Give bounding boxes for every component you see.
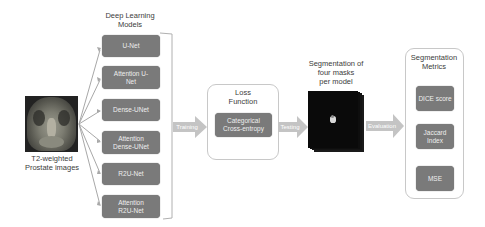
metrics-title-line: Segmentation [403,53,465,62]
loss-title: Loss Function [207,88,279,106]
model-box-dense-unet: Dense-UNet [102,99,160,121]
training-label: Training [173,116,201,138]
metric-label: Index [424,137,447,145]
metrics-title: Segmentation Metrics [403,53,465,71]
evaluation-label: Evaluation [366,114,398,138]
model-label: Attention U- [114,70,148,78]
model-box-r2u-net: R2U-Net [102,163,160,185]
segmentation-label-line: Segmentation of [300,59,372,68]
models-title: Deep Learning Models [96,11,164,29]
segmentation-label-line: four masks [300,68,372,77]
input-label: T2-weighted Prostate images [14,154,90,172]
model-box-unet: U-Net [102,35,160,57]
model-box-attention-dense-unet: AttentionDense-UNet [102,131,160,154]
metric-label: Jaccard [424,129,447,137]
model-label: Attention [113,135,149,143]
input-label-line: Prostate images [14,163,90,172]
models-bracket [160,33,172,219]
loss-title-line: Loss [207,88,279,97]
loss-item-label: Cross-entropy [223,125,264,133]
models-title-line: Deep Learning [96,11,164,20]
input-label-line: T2-weighted [14,154,90,163]
metric-box-mse: MSE [416,166,454,191]
training-arrow: Training [173,116,207,138]
models-title-line: Models [96,20,164,29]
model-label: Dense-UNet [113,143,149,151]
loss-item-categorical-cross-entropy: CategoricalCross-entropy [215,113,272,137]
testing-arrow: Testing [278,116,308,138]
segmentation-label: Segmentation of four masks per model [300,59,372,86]
model-label: Dense-UNet [113,106,149,114]
arrowhead [97,47,101,52]
mask-segment [331,115,334,118]
model-box-attention-r2u-net: AttentionR2U-Net [102,195,160,218]
loss-title-line: Function [207,97,279,106]
mri-image [25,96,78,152]
model-label: R2U-Net [118,170,143,178]
model-box-attention-unet: Attention U-Net [102,66,160,89]
mask-image [308,91,358,148]
metrics-title-line: Metrics [403,62,465,71]
metric-box-dice-score: DICE score [416,86,454,111]
model-label: R2U-Net [118,207,144,215]
metric-label: DICE score [418,95,451,103]
metric-label: MSE [428,175,442,183]
metric-box-jaccard-index: JaccardIndex [416,124,454,149]
evaluation-arrow: Evaluation [366,114,404,138]
loss-item-label: Categorical [223,117,264,125]
model-label: Attention [118,199,144,207]
model-label: Net [114,78,148,86]
model-label: U-Net [123,42,140,50]
arrowhead [97,109,101,113]
testing-label: Testing [278,116,302,138]
mask-stack [308,91,364,154]
segmentation-label-line: per model [300,77,372,86]
